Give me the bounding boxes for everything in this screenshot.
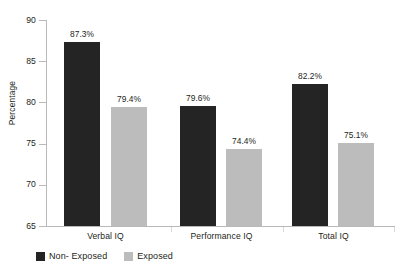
y-axis-tick: 90 <box>39 20 46 21</box>
bar-chart: Percentage 90 85 80 75 70 65 87.3% 79.4%… <box>0 0 403 272</box>
legend-label: Exposed <box>137 251 173 261</box>
y-axis-tick: 70 <box>39 185 46 186</box>
x-axis-category-label-performance-iq: Performance IQ <box>166 231 277 241</box>
bar-value-label: 79.4% <box>117 94 141 104</box>
legend-item-exposed: Exposed <box>124 251 173 261</box>
y-axis-tick: 75 <box>39 144 46 145</box>
x-axis-separator-tick <box>394 227 395 232</box>
bar-value-label: 75.1% <box>344 130 368 140</box>
y-axis-tick-label: 80 <box>26 97 36 107</box>
bar-value-label: 87.3% <box>70 29 94 39</box>
legend-swatch-icon <box>36 252 45 261</box>
y-axis-tick: 85 <box>39 61 46 62</box>
bar-value-label: 79.6% <box>186 93 210 103</box>
bar-verbal-iq-exposed: 79.4% <box>111 107 147 226</box>
y-axis-tick-label: 70 <box>26 179 36 189</box>
y-axis-tick-label: 65 <box>26 221 36 231</box>
bar-performance-iq-exposed: 74.4% <box>226 149 262 226</box>
y-axis-tick-label: 90 <box>26 15 36 25</box>
x-axis-category-label-total-iq: Total IQ <box>278 231 389 241</box>
y-axis-line <box>46 20 47 227</box>
y-axis-tick-label: 85 <box>26 56 36 66</box>
bar-total-iq-exposed: 75.1% <box>338 143 374 226</box>
legend-item-non-exposed: Non- Exposed <box>36 251 107 261</box>
y-axis-title: Percentage <box>7 58 17 148</box>
y-axis-tick-label: 75 <box>26 138 36 148</box>
legend-label: Non- Exposed <box>49 251 107 261</box>
bar-verbal-iq-non-exposed: 87.3% <box>64 42 100 226</box>
chart-legend: Non- Exposed Exposed <box>36 251 173 261</box>
x-axis-category-label-verbal-iq: Verbal IQ <box>50 231 161 241</box>
y-axis-tick: 80 <box>39 102 46 103</box>
bar-value-label: 74.4% <box>232 136 256 146</box>
legend-swatch-icon <box>124 252 133 261</box>
bar-performance-iq-non-exposed: 79.6% <box>180 106 216 226</box>
y-axis-tick: 65 <box>39 226 46 227</box>
x-axis-line <box>46 226 395 227</box>
bar-value-label: 82.2% <box>298 71 322 81</box>
bar-total-iq-non-exposed: 82.2% <box>292 84 328 226</box>
